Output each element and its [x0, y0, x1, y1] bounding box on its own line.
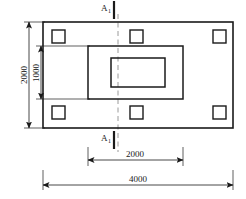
dimension-label-vertical-1000: 1000 — [31, 64, 41, 83]
column-square-bottom-middle — [130, 106, 143, 119]
inner-rectangle — [111, 58, 165, 87]
dimension-vertical-1000: 1000 — [31, 46, 90, 99]
section-mark-bottom-group: A 1 — [101, 131, 114, 149]
column-square-top-right — [213, 30, 226, 43]
dimension-label-horizontal-4000: 4000 — [129, 174, 148, 184]
dimension-horizontal-2000: 2000 — [88, 147, 183, 166]
dimension-label-horizontal-2000: 2000 — [126, 149, 145, 159]
section-label-bottom-letter: A — [101, 133, 108, 143]
section-label-top-subscript: 1 — [108, 8, 111, 14]
section-mark-top-group: A 1 — [101, 1, 114, 19]
plan-view-drawing: A 1 A 1 2000 — [0, 0, 246, 199]
dimension-horizontal-4000: 4000 — [43, 170, 233, 190]
dimension-label-vertical-2000: 2000 — [19, 66, 29, 85]
section-label-top-letter: A — [101, 3, 108, 13]
outer-slab-rectangle — [43, 22, 233, 128]
column-square-bottom-right — [213, 106, 226, 119]
column-square-bottom-left — [52, 106, 65, 119]
technical-drawing-canvas: A 1 A 1 2000 — [0, 0, 246, 199]
middle-rectangle — [88, 46, 183, 99]
section-label-bottom-subscript: 1 — [108, 138, 111, 144]
column-square-top-left — [52, 30, 65, 43]
column-square-top-middle — [130, 30, 143, 43]
